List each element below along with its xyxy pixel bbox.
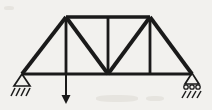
truss-drawing-canvas <box>0 0 212 110</box>
truss-diagram-figure <box>0 0 212 110</box>
